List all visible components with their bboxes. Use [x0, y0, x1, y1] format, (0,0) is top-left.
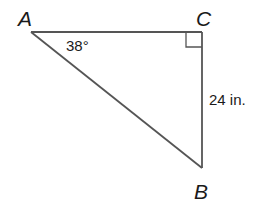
vertex-label-a: A — [16, 7, 32, 30]
triangle-diagram: A C B 38° 24 in. — [0, 0, 255, 209]
vertex-label-c: C — [196, 7, 212, 30]
side-cb-length: 24 in. — [209, 91, 246, 108]
triangle-figure: A C B 38° 24 in. — [0, 0, 255, 209]
angle-a-measure: 38° — [66, 37, 89, 54]
vertex-label-b: B — [194, 180, 208, 203]
side-ab-hypotenuse — [31, 32, 202, 168]
right-angle-marker-icon — [186, 32, 202, 47]
